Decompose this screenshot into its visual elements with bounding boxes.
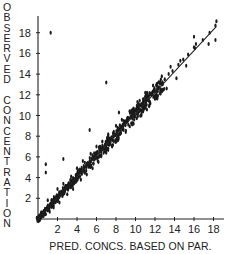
data-point	[193, 35, 195, 39]
data-point	[70, 175, 72, 179]
y-tick-label: 12	[19, 89, 31, 101]
data-point	[90, 152, 92, 156]
data-point	[193, 45, 195, 49]
data-point	[185, 64, 187, 68]
scatter-plot: 24681012141618 24681012141618	[0, 0, 231, 254]
x-tick-label: 10	[129, 223, 141, 235]
data-point	[107, 132, 109, 136]
data-point	[140, 114, 142, 118]
y-tick-label: 10	[19, 110, 31, 122]
data-point	[111, 145, 113, 149]
data-point	[92, 166, 94, 170]
x-tick-label: 6	[93, 223, 99, 235]
data-point	[66, 192, 68, 196]
data-point	[195, 42, 197, 46]
data-point	[62, 157, 64, 161]
data-point	[179, 59, 181, 63]
data-point	[118, 110, 120, 114]
data-point	[97, 160, 99, 164]
y-axis-ticks: 24681012141618	[19, 27, 40, 205]
data-point	[168, 72, 170, 76]
data-point	[47, 198, 49, 202]
data-point	[72, 187, 74, 191]
data-point	[80, 178, 82, 182]
data-point	[147, 95, 149, 99]
data-point	[45, 170, 47, 174]
x-tick-label: 16	[188, 223, 200, 235]
data-point	[101, 139, 103, 143]
regression-line	[38, 26, 216, 219]
y-tick-label: 18	[19, 27, 31, 39]
data-point	[132, 122, 134, 126]
data-point	[117, 138, 119, 142]
data-point	[89, 128, 91, 132]
data-point	[62, 182, 64, 186]
data-point	[76, 166, 78, 170]
data-point	[161, 74, 163, 78]
data-point	[144, 91, 146, 95]
data-point	[139, 103, 141, 107]
data-point	[156, 96, 158, 100]
data-point	[53, 206, 55, 210]
data-point	[121, 118, 123, 122]
data-point	[170, 65, 172, 69]
data-point	[143, 99, 145, 103]
data-point	[105, 151, 107, 155]
data-point	[56, 187, 58, 191]
data-point	[115, 124, 117, 128]
data-point	[50, 31, 52, 35]
x-tick-label: 12	[149, 223, 161, 235]
data-point	[86, 172, 88, 176]
data-point	[82, 159, 84, 163]
x-tick-label: 18	[207, 223, 219, 235]
x-tick-label: 14	[168, 223, 180, 235]
y-tick-label: 6	[25, 151, 31, 163]
data-point	[175, 76, 177, 80]
data-point	[148, 104, 150, 108]
data-point	[152, 83, 154, 87]
x-axis-label: PRED. CONCS. BASED ON PAR.	[30, 240, 231, 252]
data-point	[215, 19, 217, 23]
data-point	[58, 200, 60, 204]
data-point	[208, 42, 210, 46]
y-tick-label: 8	[25, 130, 31, 142]
data-point	[49, 210, 51, 214]
x-tick-label: 4	[74, 223, 80, 235]
x-tick-label: 8	[113, 223, 119, 235]
data-point	[95, 145, 97, 149]
data-point	[153, 89, 155, 93]
data-point	[125, 130, 127, 134]
x-tick-label: 2	[54, 223, 60, 235]
y-tick-label: 4	[25, 172, 31, 184]
data-point	[214, 38, 216, 42]
data-point	[45, 162, 47, 166]
y-tick-label: 14	[19, 68, 31, 80]
data-point	[105, 80, 107, 84]
y-tick-label: 16	[19, 47, 31, 59]
y-tick-label: 2	[25, 192, 31, 204]
data-point	[136, 100, 138, 104]
x-axis-ticks: 24681012141618	[54, 217, 219, 235]
data-point	[129, 109, 131, 113]
data-point	[166, 87, 168, 91]
